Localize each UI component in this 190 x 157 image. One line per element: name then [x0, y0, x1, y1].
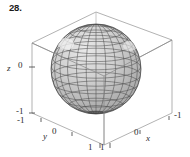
sphere-surface [51, 23, 141, 116]
figure-panel: 28. [0, 0, 190, 157]
x-tick-0: 0 [134, 127, 139, 137]
y-tick-minus-1: -1 [17, 115, 25, 125]
sphere-3d-plot [0, 0, 190, 157]
x-tick-minus-1: -1 [174, 110, 182, 120]
x-tick-1: 1 [100, 142, 105, 152]
axis-label-z: z [7, 63, 11, 73]
problem-number: 28. [9, 2, 22, 13]
z-tick-0: 0 [18, 60, 23, 70]
axis-label-y: y [43, 131, 47, 141]
y-tick-0: 0 [52, 126, 57, 136]
y-tick-1: 1 [88, 142, 93, 152]
axis-label-x: x [146, 133, 150, 143]
